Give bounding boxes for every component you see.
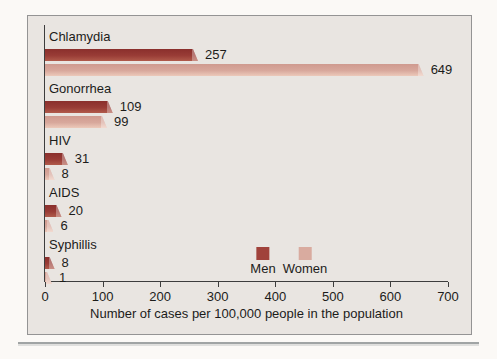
x-axis-tick [333,282,334,287]
legend-label-men: Men [250,262,275,276]
legend-item-men: Men [250,247,275,276]
x-axis-tick [45,282,46,287]
x-axis-tick-label: 0 [23,289,67,304]
bar-men [45,205,62,217]
value-label: 8 [62,167,69,181]
x-axis-tick-label: 600 [368,289,412,304]
category-label: Chlamydia [49,30,110,44]
legend-swatch-men [256,247,269,260]
bar-men [45,257,55,269]
bar-bevel-face [107,101,113,113]
x-axis-tick [160,282,161,287]
bar-bevel-face [62,153,68,165]
value-label: 99 [114,115,128,129]
figure-bottom-rule [18,342,479,344]
x-axis-tick-label: 100 [81,289,125,304]
bar-women [45,272,52,284]
category-label: AIDS [49,186,79,200]
bar-women [45,220,53,232]
category-label: Syphillis [49,238,97,252]
x-axis-tick-label: 500 [311,289,355,304]
bar-bevel-face [418,64,424,76]
legend-item-women: Women [283,247,328,276]
legend-label-women: Women [283,262,328,276]
value-label: 20 [69,204,83,218]
bar-women [45,116,107,128]
bar-bevel-face [101,116,107,128]
x-axis-tick-label: 300 [196,289,240,304]
x-axis-tick-label: 700 [426,289,470,304]
bar-bevel-face [56,205,62,217]
x-axis-tick [218,282,219,287]
x-axis-tick [390,282,391,287]
page: Number of cases per 100,000 people in th… [0,0,497,359]
bar-men [45,49,198,61]
bar-men [45,153,68,165]
legend-swatch-women [299,247,312,260]
value-label: 8 [62,256,69,270]
value-label: 6 [60,219,67,233]
value-label: 649 [431,63,453,77]
x-axis-title: Number of cases per 100,000 people in th… [45,306,448,321]
value-label: 1 [59,271,66,285]
bar-men [45,101,113,113]
x-axis-tick [448,282,449,287]
x-axis-tick [275,282,276,287]
category-label: HIV [49,134,71,148]
bar-bevel-face [49,257,55,269]
x-axis-tick-label: 400 [253,289,297,304]
bar-bevel-face [47,220,53,232]
value-label: 31 [75,152,89,166]
bar-bevel-face [192,49,198,61]
category-label: Gonorrhea [49,82,111,96]
x-axis-tick-label: 200 [138,289,182,304]
value-label: 257 [205,48,227,62]
bar-women [45,64,424,76]
bar-women [45,168,55,180]
value-label: 109 [120,100,142,114]
bar-bevel-face [46,272,52,284]
x-axis-tick [103,282,104,287]
bar-chart-plot-area: Number of cases per 100,000 people in th… [44,25,448,282]
bar-bevel-face [49,168,55,180]
